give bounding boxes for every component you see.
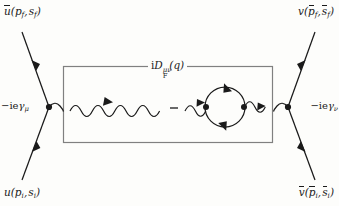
vertex-charge-left: −ie [1,100,19,111]
loop-vertex-dot-left [203,104,209,110]
p-bar-glyph: p [308,6,315,17]
vertex-dot-left [46,104,52,110]
label-vertex-factor-nu: −ieγν [310,101,338,113]
outgoing-positron-line [288,32,315,107]
label-incoming-positron-spinor: v(pi, si) [299,187,334,199]
vertex-dot-right [285,104,291,110]
p-bar-glyph-2: p [309,187,316,198]
loop-arrow-top [220,83,233,96]
propagator-box [64,67,273,143]
label-outgoing-electron-spinor: u(pf, sf) [4,6,41,18]
feynman-diagram-canvas [0,0,339,206]
label-vertex-factor-mu: −ieγμ [1,101,29,113]
incoming-positron-line [288,107,315,180]
incoming-electron-line [22,107,49,180]
label-outgoing-positron-spinor: v(pf, sf) [298,6,334,18]
vertex-charge-right: −ie [310,100,328,111]
loop-arrow-bottom [217,118,230,131]
loop-vertex-dot-right [241,104,247,110]
outgoing-electron-line [22,32,49,107]
u-bar-glyph: u [4,6,11,17]
prop-D-glyph: D [154,59,162,71]
label-photon-propagator: iDμνF(q) [148,60,187,71]
fermion-loop [205,83,245,131]
feynman-diagram-figure: u(pf, sf) v(pf, sf) u(pi, si) v(pi, si) … [0,0,339,206]
s-bar-glyph: s [322,6,327,17]
photon-momentum-arrow [103,97,114,107]
label-incoming-electron-spinor: u(pi, si) [4,187,40,199]
s-bar-glyph-2: s [322,187,327,198]
bare-photon-wavy-line [70,97,160,116]
selfenergy-left-photon [185,99,206,116]
selfenergy-right-photon [245,102,266,113]
v-bar-glyph: v [299,187,305,198]
